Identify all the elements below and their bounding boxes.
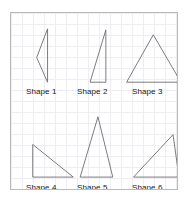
shape-1-label: Shape 1 (26, 87, 57, 96)
shape-5-label: Shape 5 (77, 183, 108, 190)
shape-2-triangle (90, 30, 106, 82)
shape-6-label: Shape 6 (132, 183, 163, 190)
worksheet-panel: Shape 1 Shape 2 Shape 3 Shape 4 Shape 5 … (10, 12, 178, 190)
shape-3-triangle (127, 35, 177, 82)
shape-4-label: Shape 4 (26, 183, 57, 190)
shape-6-triangle (134, 135, 177, 177)
shape-2-label: Shape 2 (77, 87, 108, 96)
shape-4-triangle (33, 144, 74, 177)
shapes-canvas (11, 13, 177, 189)
shape-5-triangle (80, 117, 113, 177)
shape-1-triangle (37, 29, 48, 82)
shape-3-label: Shape 3 (132, 87, 163, 96)
worksheet: Shape 1 Shape 2 Shape 3 Shape 4 Shape 5 … (0, 0, 188, 203)
